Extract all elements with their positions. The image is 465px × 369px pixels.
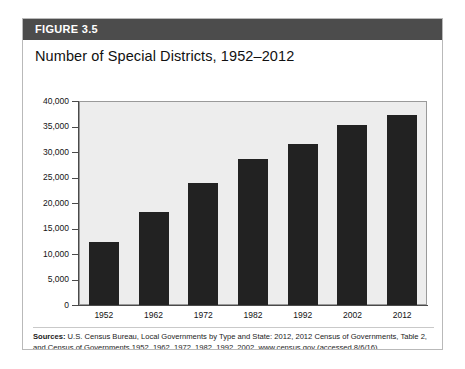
y-axis-tick-label-text: 30,000: [25, 148, 69, 157]
y-axis-tick-label-text: 0: [25, 301, 69, 310]
x-axis-tick-label-1972: 1972: [178, 310, 228, 320]
y-axis-tick: [72, 203, 79, 204]
y-axis-tick-label: 0: [23, 301, 69, 310]
source-label: Sources:: [33, 332, 66, 341]
source-note: Sources: U.S. Census Bureau, Local Gover…: [33, 332, 435, 350]
source-citation-text: U.S. Census Bureau, Local Governments by…: [33, 332, 427, 350]
y-axis-tick: [72, 101, 79, 102]
y-axis-tick: [72, 305, 79, 306]
y-axis-tick-label: 5,000: [23, 275, 69, 284]
x-axis-tick-label-1992: 1992: [278, 310, 328, 320]
chart-plot-area: [79, 101, 427, 305]
y-axis-tick: [72, 127, 79, 128]
x-axis-tick-label-1962: 1962: [129, 310, 179, 320]
y-axis-tick-label: 20,000: [23, 199, 69, 208]
figure-number-label: FIGURE 3.5: [35, 23, 98, 35]
x-axis-tick-label-2012: 2012: [377, 310, 427, 320]
y-axis-tick-label-text: 5,000: [25, 275, 69, 284]
y-axis-tick-label-text: 25,000: [25, 173, 69, 182]
bar-1982: [238, 159, 268, 305]
y-axis-tick-label: 10,000: [23, 250, 69, 259]
y-axis-tick-label-text: 10,000: [25, 250, 69, 259]
y-axis-tick: [72, 254, 79, 255]
bar-1992: [288, 144, 318, 305]
y-axis-tick: [72, 229, 79, 230]
y-axis-tick-label: 25,000: [23, 173, 69, 182]
y-axis-tick-label-text: 40,000: [25, 97, 69, 106]
x-axis-tick-label-1982: 1982: [228, 310, 278, 320]
y-axis-tick-label-text: 20,000: [25, 199, 69, 208]
y-axis-tick-label: 40,000: [23, 97, 69, 106]
y-axis-tick-label: 15,000: [23, 224, 69, 233]
figure-header-bar: FIGURE 3.5: [23, 19, 442, 40]
y-axis-tick-label: 30,000: [23, 148, 69, 157]
source-divider: [33, 327, 434, 328]
figure-card: FIGURE 3.5 Number of Special Districts, …: [22, 18, 443, 350]
y-axis-tick-label: 35,000: [23, 122, 69, 131]
y-axis-tick: [72, 178, 79, 179]
bar-2002: [337, 125, 367, 305]
chart-title: Number of Special Districts, 1952–2012: [35, 48, 294, 64]
y-axis-tick: [72, 280, 79, 281]
y-axis-tick-label-text: 15,000: [25, 224, 69, 233]
bar-2012: [387, 115, 417, 305]
bar-1972: [188, 183, 218, 305]
y-axis-tick-label-text: 35,000: [25, 122, 69, 131]
y-axis-tick: [72, 152, 79, 153]
x-axis-tick-label-2002: 2002: [327, 310, 377, 320]
x-axis-tick-label-1952: 1952: [79, 310, 129, 320]
bar-1952: [89, 242, 119, 305]
x-axis-line: [78, 305, 428, 306]
bar-1962: [139, 212, 169, 305]
